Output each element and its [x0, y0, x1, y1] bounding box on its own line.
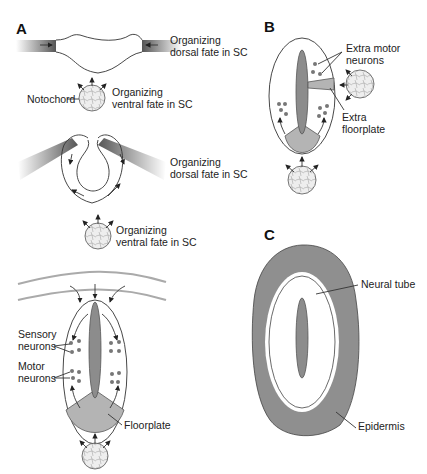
roofplate-arrow-right [110, 286, 125, 302]
dorsal-fate-label-2-line2: dorsal fate in SC [170, 168, 248, 180]
extra-floorplate-label: Extra [342, 111, 367, 123]
panel-a: A Organizing dorsal fate in SC Notochord… [16, 20, 248, 469]
epidermis-label: Epidermis [358, 420, 405, 432]
central-canal-b [296, 50, 308, 134]
right-fold-gradient [98, 138, 166, 180]
ventral-arrow-right-2 [106, 221, 113, 228]
roofplate-arrow-left [70, 286, 80, 302]
extra-motor-neurons-label-line2: neurons [346, 54, 384, 66]
epidermis-arc-outer [18, 272, 166, 284]
neural-plate-stage: Organizing dorsal fate in SC Notochord O… [16, 34, 248, 111]
ventral-fate-label-2: Organizing [116, 224, 167, 236]
neural-plate-bottom [56, 52, 142, 73]
ventral-arrow-left-2 [83, 221, 90, 228]
notochord-b-arrow-right [310, 165, 318, 172]
notochord-b-arrow-left [286, 165, 294, 172]
sensory-neurons-label: Sensory [18, 328, 57, 340]
notochord-arrow-left-3 [80, 441, 87, 448]
sensory-neurons-label-line2: neurons [18, 340, 56, 352]
notochord-arrow-right-3 [103, 441, 110, 448]
panel-a-letter: A [16, 20, 27, 37]
panel-c-letter: C [264, 226, 275, 243]
fold-arrow-bottom-right [108, 184, 120, 196]
floorplate-label: Floorplate [124, 419, 171, 431]
ventral-signal-arrow-left [78, 84, 84, 90]
fold-arrow-left [70, 154, 72, 164]
neural-fold-stage: Organizing dorsal fate in SC Organizing … [18, 135, 248, 249]
central-canal-c [296, 298, 308, 378]
ventral-fate-label-2-line2: ventral fate in SC [116, 236, 197, 248]
neural-tube-stage: Sensory neurons Motor neurons Floorplate [18, 272, 171, 469]
epidermis-arc-inner [18, 290, 166, 301]
extra-floorplate-label-line2: floorplate [342, 123, 385, 135]
ectopic-arrow-down [346, 94, 352, 100]
motor-neurons-label-line2: neurons [18, 372, 56, 384]
neural-plate-top [56, 34, 142, 40]
dorsal-fate-label-line2: dorsal fate in SC [170, 46, 248, 58]
dorsal-fate-label-2: Organizing [170, 156, 221, 168]
neural-tube-patterning-diagram: A Organizing dorsal fate in SC Notochord… [0, 0, 427, 474]
left-fold-gradient [18, 138, 78, 180]
ventral-fate-label-line2: ventral fate in SC [112, 98, 193, 110]
panel-c: C Neural tube Epidermis [252, 226, 415, 436]
motor-neurons-label: Motor [18, 360, 45, 372]
left-ectoderm-gradient [16, 40, 56, 52]
panel-b: B Extra motor neurons Extra floorplate [264, 18, 401, 194]
ventral-fate-label: Organizing [112, 86, 163, 98]
ventral-signal-arrow-right [100, 84, 106, 90]
central-canal [89, 302, 101, 398]
notochord-label: Notochord [27, 93, 76, 105]
extra-motor-neurons-label: Extra motor [346, 42, 401, 54]
panel-b-letter: B [264, 18, 275, 35]
dorsal-fate-label: Organizing [170, 34, 221, 46]
neural-tube-label: Neural tube [361, 278, 415, 290]
